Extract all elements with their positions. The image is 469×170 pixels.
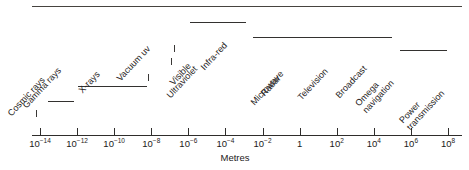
band-line-power-transmission	[400, 50, 447, 51]
band-label-infra-red: Infra-red	[199, 40, 230, 72]
band-line-gamma-rays	[48, 101, 74, 102]
axis-tick	[188, 128, 189, 136]
axis-tick-label: 104	[367, 138, 381, 149]
axis-tick	[40, 128, 41, 136]
band-line-radio	[253, 37, 392, 38]
axis-tick-label: 10−2	[254, 138, 272, 149]
leader-tick-vacuum-uv	[148, 74, 149, 81]
axis-tick-label: 102	[330, 138, 344, 149]
axis-tick-label: 10−14	[29, 138, 51, 149]
axis-tick	[225, 128, 226, 136]
axis-line	[32, 135, 462, 136]
axis-tick	[411, 128, 412, 136]
axis-tick	[300, 128, 301, 136]
top-border-rule	[32, 6, 462, 7]
band-label-power-transmission: Power transmission	[397, 81, 446, 132]
band-label-x-rays-line1: X-rays	[77, 69, 102, 95]
electromagnetic-spectrum-figure: Cosmic rays Gamma rays X-rays Vacuum uv …	[0, 0, 469, 170]
axis-tick	[114, 128, 115, 136]
band-label-x-rays: X-rays	[77, 69, 102, 95]
band-label-radar: Radar	[259, 73, 283, 98]
band-line-infra-red	[190, 22, 246, 23]
axis-tick	[374, 128, 375, 136]
axis-title: Metres	[220, 152, 249, 163]
band-label-television-line1: Television	[296, 66, 330, 102]
axis-tick	[77, 128, 78, 136]
band-label-radar-line1: Radar	[259, 73, 283, 98]
axis-tick-label: 1	[297, 138, 302, 149]
axis-tick-label: 10−4	[216, 138, 234, 149]
axis-tick-label: 10−8	[142, 138, 160, 149]
band-label-infra-red-line1: Infra-red	[199, 40, 230, 72]
axis-tick	[448, 128, 449, 136]
axis-tick-label: 10−12	[66, 138, 88, 149]
band-label-vacuum-uv-line1: Vacuum uv	[115, 44, 153, 83]
leader-tick-visible	[174, 45, 175, 52]
axis-tick-label: 10−6	[179, 138, 197, 149]
axis-tick-label: 10−10	[103, 138, 125, 149]
band-label-vacuum-uv: Vacuum uv	[115, 44, 153, 83]
axis-tick-label: 106	[404, 138, 418, 149]
axis-tick-label: 108	[441, 138, 455, 149]
band-label-television: Television	[296, 66, 330, 102]
axis-tick	[337, 128, 338, 136]
leader-tick-ultraviolet	[171, 58, 172, 65]
axis-tick	[263, 128, 264, 136]
leader-tick-cosmic-rays	[36, 110, 37, 117]
axis-tick	[151, 128, 152, 136]
